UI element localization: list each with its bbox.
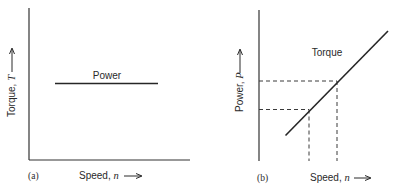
panel-a-x-label: Speed, n [79,170,119,181]
panel-b-x-arrow-icon [354,176,371,181]
panel-a-y-label-symbol: T [6,74,17,81]
panel-a: Power Torque, T (a) Speed, n [6,8,190,182]
panel-b-x-label: Speed, n [310,172,350,183]
panel-a-y-arrow-icon [10,48,15,72]
panel-b-curve-label: Torque [312,47,343,58]
panel-a-y-label-text: Torque, [6,81,17,117]
svg-text:Torque, T: Torque, T [6,74,17,117]
panel-b-y-arrow-icon [238,49,243,73]
panel-a-x-label-text: Speed, [79,170,113,181]
panel-b-y-label-text: Power, [234,79,245,112]
panel-b-y-label: Power, P [234,72,245,112]
panel-b: Torque Power, P (b) Speed, n [234,10,416,184]
panel-a-tag: (a) [28,171,39,182]
svg-text:Power, P: Power, P [234,72,245,112]
panel-a-x-arrow-icon [124,174,142,179]
panel-b-x-label-symbol: n [344,172,349,183]
panel-a-x-label-symbol: n [113,170,118,181]
panel-a-y-label: Torque, T [6,74,17,117]
panel-b-x-label-text: Speed, [310,172,344,183]
panel-a-curve-label: Power [93,70,122,81]
figure: Power Torque, T (a) Speed, n [0,0,420,185]
panel-b-tag: (b) [257,173,268,184]
